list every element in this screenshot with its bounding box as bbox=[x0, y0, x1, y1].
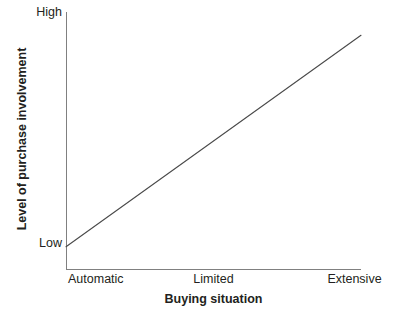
x-axis-tick-limited: Limited bbox=[193, 272, 233, 286]
x-axis-tick-extensive: Extensive bbox=[327, 272, 381, 286]
chart-container: High Low Automatic Limited Extensive Buy… bbox=[0, 0, 404, 317]
x-axis-tick-labels: Automatic Limited Extensive bbox=[66, 272, 361, 290]
x-axis-title: Buying situation bbox=[66, 292, 361, 306]
y-axis-title: Level of purchase involvement bbox=[15, 29, 29, 249]
plot-area bbox=[66, 12, 361, 270]
y-axis-tick-high: High bbox=[4, 5, 62, 19]
y-axis-tick-low: Low bbox=[4, 236, 62, 250]
data-line-series-1 bbox=[66, 35, 361, 247]
x-axis-tick-automatic: Automatic bbox=[68, 272, 124, 286]
data-line-svg bbox=[66, 12, 361, 270]
y-axis-tick-labels: High Low bbox=[0, 0, 62, 280]
